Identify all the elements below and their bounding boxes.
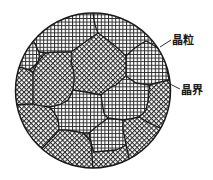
grain-leader-line (160, 40, 171, 47)
grain-boundary-label: 晶界 (181, 84, 203, 97)
grain-label: 晶粒 (172, 34, 194, 47)
